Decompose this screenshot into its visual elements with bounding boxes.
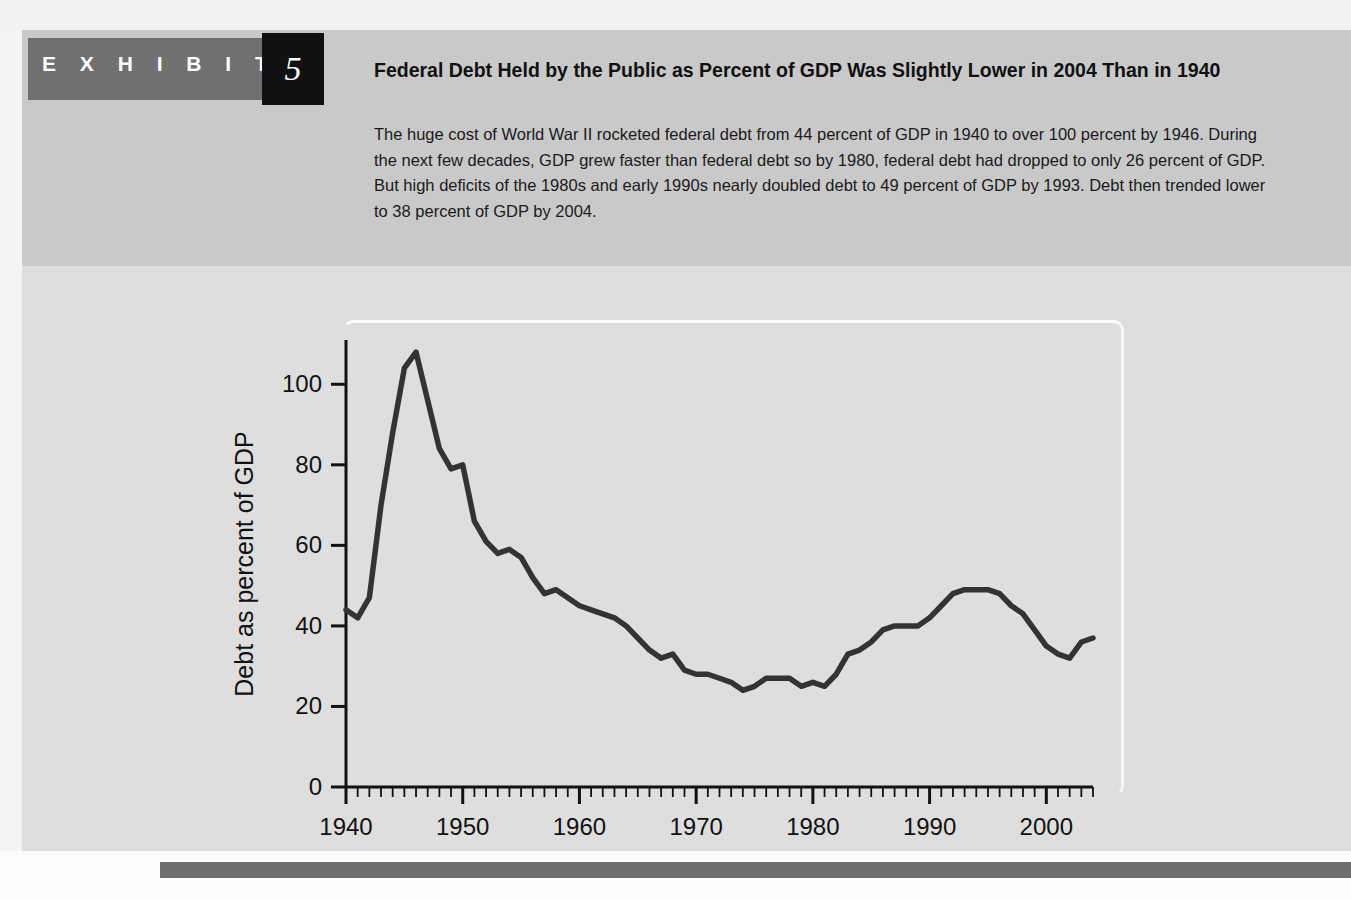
x-axis-tick-label: 1950 [436,813,489,840]
exhibit-page: E X H I B I T 5 Federal Debt Held by the… [0,0,1351,900]
y-axis-ticks: 020406080100 [282,370,346,800]
x-axis-tick-label: 2000 [1020,813,1073,840]
top-margin [0,0,1351,30]
exhibit-label-text: E X H I B I T [42,52,277,76]
chart: 020406080100 Debt as percent of GDP 1940… [215,300,1135,845]
y-axis-tick-label: 40 [295,612,322,639]
x-axis-ticks [346,787,1093,804]
x-axis-tick-labels: 1940195019601970198019902000 [319,813,1073,840]
description-paragraph: The huge cost of World War II rocketed f… [374,122,1280,224]
x-axis-tick-label: 1980 [786,813,839,840]
x-axis-tick-label: 1970 [669,813,722,840]
y-axis-tick-label: 60 [295,531,322,558]
page-title: Federal Debt Held by the Public as Perce… [374,58,1274,83]
y-axis-tick-label: 80 [295,451,322,478]
y-axis-title: Debt as percent of GDP [230,431,258,696]
bottom-rule [160,862,1351,878]
exhibit-number: 5 [262,33,324,105]
x-axis-tick-label: 1990 [903,813,956,840]
debt-series-line [346,352,1093,690]
x-axis-group: 1940195019601970198019902000 [319,787,1093,840]
y-axis-group: 020406080100 Debt as percent of GDP [230,340,346,800]
x-axis-tick-label: 1940 [319,813,372,840]
y-axis-tick-label: 0 [309,773,322,800]
y-axis-tick-label: 20 [295,692,322,719]
y-axis-tick-label: 100 [282,370,322,397]
left-gutter [0,30,22,875]
x-axis-tick-label: 1960 [553,813,606,840]
chart-svg: 020406080100 Debt as percent of GDP 1940… [215,300,1135,845]
